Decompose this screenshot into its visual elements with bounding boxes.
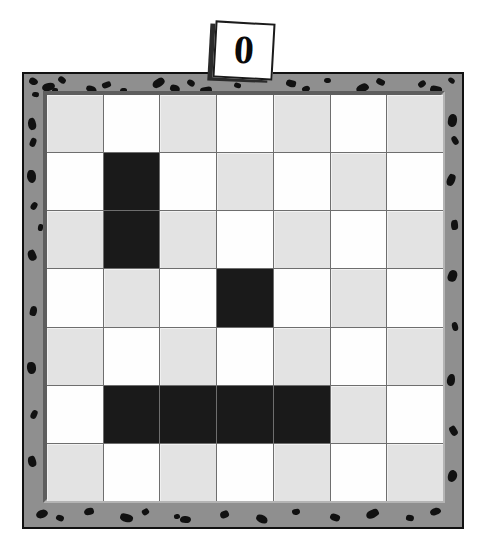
grid-cell-r3-c6[interactable] xyxy=(387,269,443,326)
frame-speckle xyxy=(255,513,269,525)
grid-cell-r0-c4[interactable] xyxy=(274,95,330,152)
frame-speckle xyxy=(365,508,380,521)
grid-cell-r4-c5[interactable] xyxy=(331,328,387,385)
grid-cell-r5-c1[interactable] xyxy=(104,386,160,443)
grid-cell-r5-c6[interactable] xyxy=(387,386,443,443)
grid-cell-r2-c5[interactable] xyxy=(331,211,387,268)
grid-cell-r6-c3[interactable] xyxy=(217,444,273,501)
grid-cell-r0-c2[interactable] xyxy=(160,95,216,152)
frame-speckle xyxy=(445,173,456,187)
frame-speckle xyxy=(285,79,296,88)
grid-cell-r4-c2[interactable] xyxy=(160,328,216,385)
grid-cell-r1-c3[interactable] xyxy=(217,153,273,210)
grid-cell-r5-c5[interactable] xyxy=(331,386,387,443)
frame-speckle xyxy=(447,469,459,483)
frame-speckle xyxy=(27,117,37,130)
grid-cell-r1-c6[interactable] xyxy=(387,153,443,210)
frame-speckle xyxy=(84,507,95,515)
frame-speckle xyxy=(324,78,332,84)
frame-speckle xyxy=(233,82,241,89)
frame-speckle xyxy=(35,508,49,519)
grid-cell-r4-c0[interactable] xyxy=(47,328,103,385)
grid-cell-r4-c1[interactable] xyxy=(104,328,160,385)
grid-cell-r3-c0[interactable] xyxy=(47,269,103,326)
frame-speckle xyxy=(141,508,150,517)
grid-cell-r4-c6[interactable] xyxy=(387,328,443,385)
frame-speckle xyxy=(429,507,442,517)
frame-speckle xyxy=(29,137,38,148)
grid-cell-r1-c4[interactable] xyxy=(274,153,330,210)
grid-cell-r2-c0[interactable] xyxy=(47,211,103,268)
frame-speckle xyxy=(55,514,65,523)
frame-speckle xyxy=(29,201,38,211)
nonogram-grid[interactable] xyxy=(47,95,443,501)
grid-cell-r0-c3[interactable] xyxy=(217,95,273,152)
grid-cell-r6-c0[interactable] xyxy=(47,444,103,501)
grid-cell-r4-c3[interactable] xyxy=(217,328,273,385)
frame-speckle xyxy=(448,425,459,437)
frame-speckle xyxy=(26,249,38,262)
frame-speckle xyxy=(292,508,301,515)
frame-speckle xyxy=(57,75,67,85)
grid-cell-r0-c0[interactable] xyxy=(47,95,103,152)
grid-cell-r2-c2[interactable] xyxy=(160,211,216,268)
grid-cell-r2-c4[interactable] xyxy=(274,211,330,268)
frame-speckle xyxy=(26,170,36,184)
grid-cell-r1-c5[interactable] xyxy=(331,153,387,210)
grid-cell-r0-c5[interactable] xyxy=(331,95,387,152)
grid-cell-r1-c0[interactable] xyxy=(47,153,103,210)
grid-cell-r5-c3[interactable] xyxy=(217,386,273,443)
frame-speckle xyxy=(28,77,39,87)
frame-speckle xyxy=(450,135,460,146)
grid-cell-r6-c4[interactable] xyxy=(274,444,330,501)
grid-cell-r0-c1[interactable] xyxy=(104,95,160,152)
grid-cell-r3-c2[interactable] xyxy=(160,269,216,326)
frame-speckle xyxy=(446,374,456,387)
grid-cell-r6-c1[interactable] xyxy=(104,444,160,501)
frame-speckle xyxy=(29,409,38,420)
frame-speckle xyxy=(32,91,40,97)
board-frame xyxy=(22,72,464,529)
grid-cell-r6-c6[interactable] xyxy=(387,444,443,501)
frame-speckle xyxy=(186,78,196,87)
frame-speckle xyxy=(119,513,134,524)
grid-cell-r1-c2[interactable] xyxy=(160,153,216,210)
frame-speckle xyxy=(450,220,458,231)
grid-cell-r6-c2[interactable] xyxy=(160,444,216,501)
frame-speckle xyxy=(446,269,459,283)
clue-tag-value: 0 xyxy=(233,29,255,70)
frame-speckle xyxy=(26,361,37,374)
grid-cell-r6-c5[interactable] xyxy=(331,444,387,501)
grid-cell-r3-c4[interactable] xyxy=(274,269,330,326)
frame-speckle xyxy=(101,81,112,90)
frame-speckle xyxy=(329,513,341,523)
grid-cell-r5-c2[interactable] xyxy=(160,386,216,443)
grid-cell-r1-c1[interactable] xyxy=(104,153,160,210)
grid-cell-r5-c0[interactable] xyxy=(47,386,103,443)
grid-cell-r5-c4[interactable] xyxy=(274,386,330,443)
frame-speckle xyxy=(451,321,459,331)
grid-cell-r2-c1[interactable] xyxy=(104,211,160,268)
clue-tag-face: 0 xyxy=(212,20,275,80)
grid-cell-r0-c6[interactable] xyxy=(387,95,443,152)
frame-speckle xyxy=(151,76,166,89)
frame-speckle xyxy=(447,113,458,127)
grid-cell-r4-c4[interactable] xyxy=(274,328,330,385)
frame-speckle xyxy=(27,455,38,468)
frame-speckle xyxy=(29,305,38,316)
frame-speckle xyxy=(417,79,427,89)
grid-cell-r3-c5[interactable] xyxy=(331,269,387,326)
frame-speckle xyxy=(375,77,386,87)
frame-speckle xyxy=(174,513,181,519)
grid-cell-r2-c6[interactable] xyxy=(387,211,443,268)
clue-tag[interactable]: 0 xyxy=(212,20,275,80)
grid-cell-r3-c3[interactable] xyxy=(217,269,273,326)
frame-speckle xyxy=(219,510,230,520)
grid-cell-r3-c1[interactable] xyxy=(104,269,160,326)
frame-speckle xyxy=(405,514,414,522)
frame-speckle xyxy=(447,76,456,84)
frame-speckle xyxy=(180,515,192,523)
puzzle-scene: 0 xyxy=(0,0,482,550)
grid-cell-r2-c3[interactable] xyxy=(217,211,273,268)
